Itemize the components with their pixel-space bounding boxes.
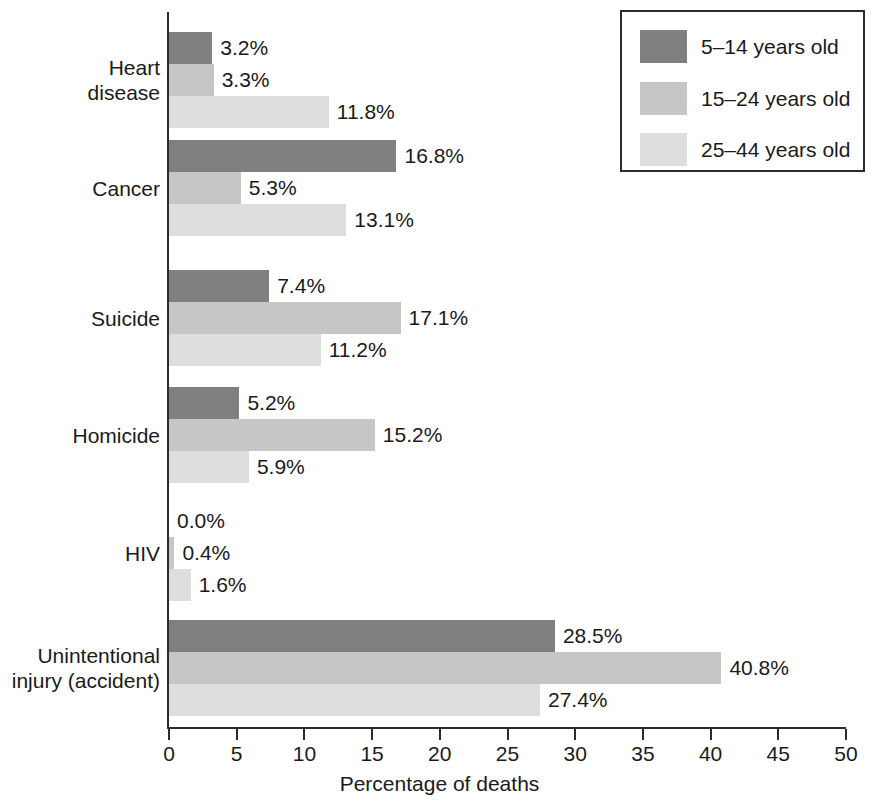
bar[interactable] — [169, 270, 269, 302]
x-tick-label: 10 — [293, 742, 316, 766]
bar[interactable] — [169, 334, 321, 366]
bar[interactable] — [169, 140, 396, 172]
bar-chart: 05101520253035404550 3.2%3.3%11.8%16.8%5… — [0, 0, 879, 807]
bar[interactable] — [169, 302, 401, 334]
bar[interactable] — [169, 451, 249, 483]
x-axis-title: Percentage of deaths — [0, 772, 879, 796]
x-tick-label: 30 — [564, 742, 587, 766]
bar[interactable] — [169, 96, 329, 128]
bar[interactable] — [169, 537, 174, 569]
bar-value-label: 3.2% — [220, 35, 268, 61]
bar-value-label: 28.5% — [563, 623, 623, 649]
x-tick — [777, 729, 779, 740]
legend-item[interactable]: 15–24 years old — [640, 82, 850, 115]
legend-swatch — [640, 133, 687, 166]
bar-value-label: 40.8% — [729, 655, 789, 681]
bar-value-label: 13.1% — [354, 207, 414, 233]
bar-value-label: 7.4% — [277, 273, 325, 299]
legend-label: 5–14 years old — [701, 35, 839, 59]
legend-swatch — [640, 82, 687, 115]
bar-value-label: 16.8% — [404, 143, 464, 169]
bar[interactable] — [169, 419, 375, 451]
x-tick — [507, 729, 509, 740]
bar[interactable] — [169, 652, 721, 684]
legend-label: 25–44 years old — [701, 138, 850, 162]
category-label: Homicide — [72, 423, 160, 448]
bar-value-label: 11.8% — [337, 99, 395, 125]
bar-value-label: 17.1% — [409, 305, 469, 331]
x-tick — [710, 729, 712, 740]
bar-value-label: 5.3% — [249, 175, 297, 201]
legend-label: 15–24 years old — [701, 87, 850, 111]
bar[interactable] — [169, 620, 555, 652]
bar-value-label: 11.2% — [329, 337, 387, 363]
bar[interactable] — [169, 387, 239, 419]
bar[interactable] — [169, 64, 214, 96]
bar[interactable] — [169, 172, 241, 204]
legend-item[interactable]: 25–44 years old — [640, 133, 850, 166]
x-tick — [303, 729, 305, 740]
x-tick-label: 0 — [163, 742, 175, 766]
category-label: Heart disease — [88, 55, 160, 105]
legend: 5–14 years old15–24 years old25–44 years… — [620, 10, 865, 172]
bar[interactable] — [169, 684, 540, 716]
x-tick-label: 15 — [360, 742, 383, 766]
legend-swatch — [640, 30, 687, 63]
x-tick — [371, 729, 373, 740]
bar[interactable] — [169, 569, 191, 601]
legend-item[interactable]: 5–14 years old — [640, 30, 839, 63]
x-tick — [168, 729, 170, 740]
x-tick — [439, 729, 441, 740]
x-tick-label: 20 — [428, 742, 451, 766]
x-tick — [574, 729, 576, 740]
bar-value-label: 5.2% — [247, 390, 295, 416]
bar-value-label: 0.0% — [177, 508, 225, 534]
bar-value-label: 15.2% — [383, 422, 443, 448]
bar[interactable] — [169, 32, 212, 64]
category-label: HIV — [125, 541, 160, 566]
bar-value-label: 27.4% — [548, 687, 608, 713]
x-tick — [642, 729, 644, 740]
x-tick-label: 50 — [834, 742, 857, 766]
category-label: Cancer — [92, 176, 160, 201]
x-tick — [236, 729, 238, 740]
x-tick-label: 5 — [231, 742, 243, 766]
x-tick-label: 40 — [699, 742, 722, 766]
bar-value-label: 3.3% — [222, 67, 270, 93]
x-tick-label: 45 — [767, 742, 790, 766]
x-tick — [845, 729, 847, 740]
category-label: Unintentional injury (accident) — [12, 643, 160, 693]
bar-value-label: 1.6% — [199, 572, 247, 598]
bar-value-label: 5.9% — [257, 454, 305, 480]
x-tick-label: 25 — [496, 742, 519, 766]
category-label: Suicide — [91, 306, 160, 331]
x-tick-label: 35 — [631, 742, 654, 766]
bar-value-label: 0.4% — [182, 540, 230, 566]
bar[interactable] — [169, 204, 346, 236]
